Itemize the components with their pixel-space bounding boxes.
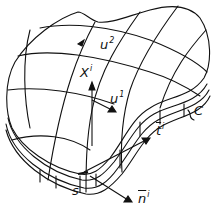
u1-vector — [92, 100, 112, 110]
grid-line-u2-4 — [121, 6, 178, 172]
label-ti: ti — [156, 124, 164, 137]
grid-line-u1-1 — [40, 25, 207, 72]
shell-surface-drawing — [0, 0, 216, 219]
shell-outline — [7, 7, 210, 175]
label-ti-base: t — [156, 123, 161, 138]
ni-vector — [90, 176, 128, 200]
label-ni: ni — [138, 192, 149, 205]
xi-arrowhead-icon — [89, 82, 95, 90]
label-xi-sup: i — [90, 64, 92, 73]
shell-surface-diagram: u2 Xi u1 C ti s ni — [0, 0, 216, 219]
label-u2: u2 — [100, 38, 114, 51]
label-ni-base: n — [138, 191, 146, 206]
label-ni-sup: i — [147, 190, 149, 199]
grid-line-u1-4 — [12, 136, 90, 150]
label-u1: u1 — [110, 92, 124, 105]
label-s-base: s — [72, 183, 79, 198]
shell-edge-layer-1 — [8, 84, 207, 180]
label-u2-sup: 2 — [109, 36, 114, 45]
ni-arrowhead-icon — [124, 196, 132, 202]
label-xi: Xi — [80, 66, 92, 79]
grid-line-u1-3 — [8, 89, 114, 104]
grid-line-u2-5 — [160, 30, 206, 108]
label-ti-sup: i — [162, 122, 164, 131]
grid-line-u2-2 — [48, 22, 95, 180]
label-u1-sup: 1 — [119, 90, 124, 99]
ti-vector — [84, 140, 146, 172]
label-s: s — [72, 184, 79, 197]
label-xi-base: X — [80, 65, 89, 80]
label-c: C — [194, 104, 203, 117]
label-u2-base: u — [100, 37, 108, 52]
label-u1-base: u — [110, 91, 118, 106]
label-c-base: C — [194, 103, 203, 118]
